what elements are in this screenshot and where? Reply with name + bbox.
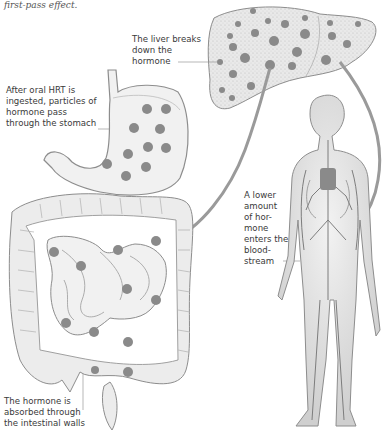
- liver-label: The liver breaks down the hormone: [132, 34, 201, 67]
- intestine-label: The hormone is absorbed through the inte…: [4, 396, 85, 429]
- liver-illustration: [208, 7, 376, 109]
- human-body-illustration: [278, 95, 380, 426]
- stomach-label: After oral HRT is ingested, particles of…: [6, 85, 97, 129]
- heart-icon: [320, 168, 336, 190]
- bloodstream-label: A lower amount of hor- mone enters the b…: [244, 190, 288, 267]
